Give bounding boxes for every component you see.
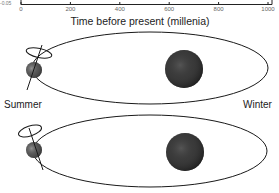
orbit-diagram-top <box>25 32 268 104</box>
x-tick-label: 1000 <box>261 6 274 12</box>
x-tick-label: 600 <box>164 6 174 12</box>
x-tick-label: 400 <box>115 6 125 12</box>
sun-icon <box>166 133 204 171</box>
orbit-ellipse <box>32 32 268 104</box>
orbit-diagram-bottom <box>17 115 267 187</box>
sun-icon <box>165 50 203 88</box>
figure-canvas <box>0 0 279 193</box>
summer-label: Summer <box>4 99 42 110</box>
x-tick-label: 200 <box>65 6 75 12</box>
x-tick-label: 0 <box>19 6 22 12</box>
winter-label: Winter <box>243 99 272 110</box>
x-tick-label: 800 <box>214 6 224 12</box>
x-axis-label: Time before present (millenia) <box>70 15 209 27</box>
orbit-ellipse <box>33 115 267 187</box>
